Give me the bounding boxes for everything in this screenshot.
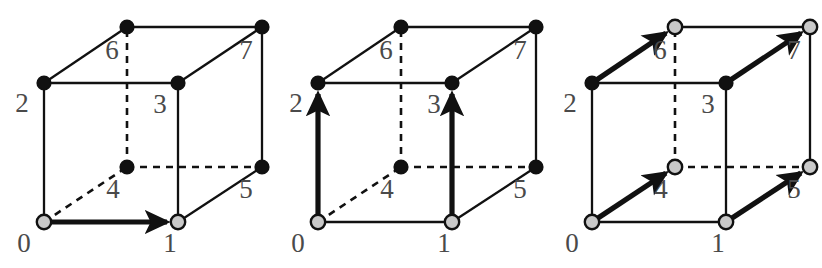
vertex-label-0: 0 (565, 228, 579, 258)
vertex-4-open (668, 160, 682, 174)
vertex-label-6: 6 (105, 35, 119, 65)
vertex-5-filled (529, 160, 542, 173)
vertex-5-filled (255, 160, 268, 173)
vertex-2-filled (585, 76, 598, 89)
vertex-6-filled (394, 20, 407, 33)
panel-a-dashed-edges (44, 27, 262, 222)
vertex-label-3: 3 (427, 89, 441, 119)
vertex-label-4: 4 (106, 174, 120, 204)
vertex-label-3: 3 (153, 89, 167, 119)
vertex-label-0: 0 (17, 228, 31, 258)
vertex-7-filled (529, 20, 542, 33)
vertex-label-0: 0 (291, 228, 305, 258)
vertex-label-5: 5 (787, 174, 801, 204)
panel-c-cube-diagram: 01234567 (548, 0, 822, 268)
panel-a: 01234567 (0, 0, 274, 268)
panel-c-arrow-edges (592, 33, 801, 222)
vertex-label-3: 3 (701, 89, 715, 119)
panel-a-cube-diagram: 01234567 (0, 0, 274, 268)
vertex-7-open (803, 20, 817, 34)
hypercube-edge-traversal-figure: 012345670123456701234567 (0, 0, 822, 268)
vertex-label-2: 2 (289, 88, 303, 118)
vertex-label-5: 5 (239, 174, 253, 204)
vertex-label-7: 7 (239, 35, 253, 65)
vertex-label-4: 4 (380, 174, 394, 204)
vertex-label-6: 6 (653, 35, 667, 65)
vertex-label-4: 4 (654, 174, 668, 204)
vertex-0-open (585, 215, 599, 229)
vertex-7-filled (255, 20, 268, 33)
panel-c-vertices (585, 20, 817, 229)
vertex-label-1: 1 (163, 228, 177, 258)
panel-b-vertices (311, 20, 543, 229)
panel-b-cube-diagram: 01234567 (274, 0, 548, 268)
vertex-label-7: 7 (513, 35, 527, 65)
vertex-4-filled (120, 160, 133, 173)
vertex-6-filled (120, 20, 133, 33)
vertex-label-1: 1 (437, 228, 451, 258)
vertex-5-open (803, 160, 817, 174)
vertex-3-filled (171, 76, 184, 89)
vertex-0-open (311, 215, 325, 229)
vertex-label-2: 2 (15, 88, 29, 118)
panel-b-dashed-edges (318, 27, 536, 222)
vertex-3-filled (445, 76, 458, 89)
vertex-label-1: 1 (711, 228, 725, 258)
panel-c-solid-edges (592, 27, 810, 222)
panel-a-vertices (37, 20, 269, 229)
vertex-label-7: 7 (787, 35, 801, 65)
vertex-2-filled (311, 76, 324, 89)
vertex-label-5: 5 (513, 174, 527, 204)
panel-c-dashed-edges (592, 27, 810, 222)
panel-b-solid-edges (318, 27, 536, 222)
vertex-3-filled (719, 76, 732, 89)
panel-c: 01234567 (548, 0, 822, 268)
panel-a-solid-edges (44, 27, 262, 222)
panel-b: 01234567 (274, 0, 548, 268)
vertex-4-filled (394, 160, 407, 173)
vertex-label-6: 6 (379, 35, 393, 65)
vertex-label-2: 2 (563, 88, 577, 118)
vertex-0-open (37, 215, 51, 229)
vertex-2-filled (37, 76, 50, 89)
vertex-6-open (668, 20, 682, 34)
